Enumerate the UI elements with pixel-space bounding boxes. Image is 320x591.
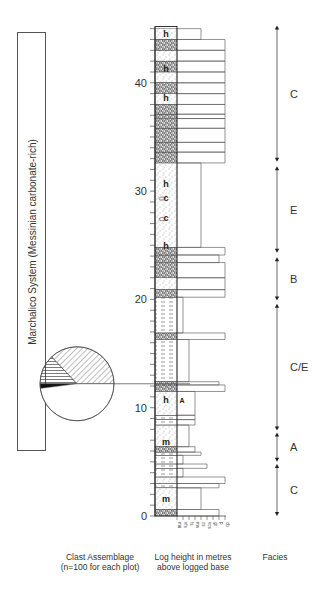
grain-size-profile [177,425,189,447]
facies-label: C/E [290,361,308,373]
grain-size-label: ms [195,522,200,529]
axis-tick-label: 40 [135,77,147,89]
lithology-bed [155,297,177,333]
grain-size-profile [177,415,195,419]
lithology-symbol: h [163,241,169,251]
lithology-bed [155,128,177,142]
grain-size-label: vfs [183,522,188,529]
arrow-up-icon [275,433,279,437]
grain-size-profile [177,61,225,72]
lithology-bed [155,447,177,452]
grain-size-profile [177,447,195,452]
grain-size-label: cs [201,522,206,527]
lithology-bed [155,142,177,152]
grain-size-profile [177,339,189,381]
grain-size-profile [177,488,201,510]
log-caption-line2: above logged base [138,562,248,572]
grain-size-label: gr [213,522,218,527]
lithology-bed [155,278,177,290]
grain-size-profile [177,477,225,483]
lithology-symbol: h [163,395,169,405]
lithology-symbol: h [163,64,169,74]
lithology-bed [155,455,177,464]
arrow-up-icon [275,464,279,468]
facies-label: C [290,484,298,496]
grain-size-profile [177,464,207,468]
lithology-bed [155,382,177,385]
arrow-down-icon [275,512,279,516]
arrow-down-icon [275,296,279,300]
grain-size-label: cb [225,522,230,527]
grain-size-profile [177,104,225,114]
grain-size-profile [177,72,225,83]
facies-caption-text: Facies [250,552,300,562]
grain-size-profile [177,278,225,290]
lithology-symbol: m [162,494,170,504]
grain-size-profile [177,247,225,255]
lithology-bed [155,290,177,298]
arrow-down-icon [275,426,279,430]
lithology-bed [155,263,177,278]
grain-size-profile [177,468,183,477]
axis-tick-label: 10 [135,402,147,414]
grain-size-profile [177,83,225,94]
arrow-up-icon [275,25,279,29]
arrow-up-icon [275,257,279,261]
grain-size-profile [177,163,201,247]
lithology-bed [155,114,177,118]
facies-label: A [290,441,298,453]
lithology-symbol: A [179,397,184,404]
axis-tick-label: 30 [135,185,147,197]
lithology-bed [155,464,177,468]
grain-size-label: mu [177,522,182,529]
lithology-bed [155,39,177,50]
lithology-bed [155,333,177,339]
grain-size-profile [177,484,219,488]
lithology-bed [155,119,177,129]
lithology-bed [155,50,177,61]
lithology-bed [155,104,177,114]
lithology-symbol: h [163,29,169,39]
arrow-down-icon [275,158,279,162]
grain-size-profile [177,142,225,152]
grain-size-profile [177,152,225,163]
grain-size-profile [177,29,201,40]
sedimentary-log-figure: 010203040muvfsfsmscsvcsgrpcbhhhhcchhAmmC… [0,0,320,591]
facies-label: E [290,204,297,216]
axis-tick-label: 0 [141,510,147,522]
log-height-caption: Log height in metres above logged base [138,552,248,572]
grain-size-profile [177,510,219,516]
grain-size-label: vcs [207,522,212,530]
arrow-up-icon [275,304,279,308]
grain-size-profile [177,385,225,391]
lithology-bed [155,339,177,381]
lithology-bed [155,385,177,391]
facies-caption: Facies [250,552,300,562]
grain-size-profile [177,255,219,263]
grain-size-label: p [219,522,224,525]
grain-size-profile [177,420,195,425]
grain-size-profile [177,297,183,333]
lithology-bed [155,510,177,516]
grain-size-profile [177,128,225,142]
arrow-up-icon [275,166,279,170]
facies-label: B [290,273,297,285]
grain-size-profile [177,333,225,339]
lithology-bed [155,452,177,455]
grain-size-profile [177,382,219,385]
grain-size-profile [177,114,225,118]
grain-size-label: fs [189,522,194,526]
log-caption-line1: Log height in metres [138,552,248,562]
grain-size-profile [177,455,183,464]
pie-slice-white [40,384,114,421]
grain-size-profile [177,452,201,455]
lithology-bed [155,163,177,247]
grain-size-profile [177,39,225,50]
axis-tick-label: 20 [135,293,147,305]
lithology-bed [155,415,177,419]
lithology-bed [155,255,177,263]
lithology-bed [155,477,177,483]
lithology-bed [155,152,177,163]
lithology-symbol: m [162,437,170,447]
arrow-down-icon [275,249,279,253]
